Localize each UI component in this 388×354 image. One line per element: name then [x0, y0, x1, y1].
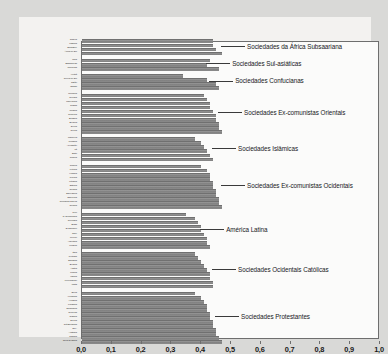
bar — [82, 316, 210, 320]
y-axis-country-labels: NigériaUgandaZimbábueÁfrica do SulÍndiaB… — [19, 41, 79, 339]
x-axis-tick-label: 0,6 — [255, 345, 265, 354]
bar — [82, 149, 207, 153]
y-axis-label: Uruguai — [69, 244, 77, 247]
x-axis-tick — [141, 341, 142, 344]
bar-row — [82, 74, 380, 77]
bar-row — [82, 252, 380, 255]
bar-row — [82, 201, 380, 204]
bar — [82, 332, 216, 336]
x-axis-tick-label: 0,7 — [285, 345, 295, 354]
bar — [82, 201, 219, 205]
y-axis-label: Zimbábue — [67, 46, 77, 49]
bar-row — [82, 158, 380, 161]
y-axis-label: Itália — [72, 251, 77, 254]
bar-row — [82, 221, 380, 224]
bar-row — [82, 260, 380, 263]
bar-row — [82, 296, 380, 299]
bar — [82, 217, 195, 221]
y-axis-label: Japão — [71, 81, 77, 84]
bar-row — [82, 324, 380, 327]
y-axis-label: Egito — [72, 152, 77, 155]
bar-row — [82, 237, 380, 240]
bar — [82, 145, 204, 149]
bar-row — [82, 169, 380, 172]
bar — [82, 336, 219, 340]
y-axis-label: Belarus — [70, 121, 77, 124]
bar-row — [82, 197, 380, 200]
bar — [82, 233, 204, 237]
y-axis-label: República Tcheca — [60, 200, 77, 203]
y-axis-label: Taiwan — [70, 85, 77, 88]
y-axis-label: Chile — [72, 232, 77, 235]
bar — [82, 165, 201, 169]
group-annotation: Sociedades Confucianas — [235, 77, 304, 84]
y-axis-label: EUA — [73, 327, 78, 330]
y-axis-label: Malta — [72, 283, 77, 286]
bar — [82, 277, 210, 281]
bar-row — [82, 233, 380, 236]
bar-row — [82, 52, 380, 55]
bar — [82, 173, 210, 177]
bar — [82, 328, 216, 332]
bar — [82, 154, 210, 158]
y-axis-label: Eslovênia — [68, 196, 78, 199]
bar-row — [82, 154, 380, 157]
bar — [82, 169, 207, 173]
bar — [82, 177, 210, 181]
y-axis-label: Moldávia — [68, 92, 77, 95]
y-axis-label: Lituânia — [69, 180, 77, 183]
bar — [82, 268, 207, 272]
y-axis-label: Austrália — [68, 331, 77, 334]
bar-row — [82, 118, 380, 121]
bar-row — [82, 332, 380, 335]
y-axis-label: Alemanha — [67, 295, 77, 298]
bar — [82, 221, 198, 225]
bar-row — [82, 141, 380, 144]
bar-row — [82, 137, 380, 140]
bar-row — [82, 300, 380, 303]
y-axis-label: Grécia — [71, 129, 77, 132]
bar-row — [82, 189, 380, 192]
y-axis-label: Brasil — [72, 223, 77, 226]
chart-canvas: NigériaUgandaZimbábueÁfrica do SulÍndiaB… — [19, 17, 371, 337]
x-axis-tick — [260, 341, 261, 344]
bars-layer — [82, 42, 378, 338]
bar-row — [82, 177, 380, 180]
bar-row — [82, 308, 380, 311]
y-axis-label: Bulgária — [69, 117, 77, 120]
y-axis-label: Geórgia — [69, 96, 77, 99]
bar-row — [82, 102, 380, 105]
x-axis-tick-label: 0,8 — [315, 345, 325, 354]
bar — [82, 324, 213, 328]
y-axis-label: Peru — [72, 211, 77, 214]
x-axis-tick — [290, 341, 291, 344]
bar — [82, 308, 207, 312]
y-axis-label: Jordânia — [69, 140, 77, 143]
bar-row — [82, 217, 380, 220]
y-axis-label: Marrocos — [68, 136, 77, 139]
bar — [82, 74, 183, 78]
bar — [82, 272, 210, 276]
bar-row — [82, 285, 380, 288]
bar-row — [82, 149, 380, 152]
y-axis-label: Canadá — [69, 335, 77, 338]
plot-frame — [81, 41, 379, 339]
x-axis-tick — [349, 341, 350, 344]
bar-row — [82, 245, 380, 248]
group-annotation: América Latina — [226, 226, 267, 233]
y-axis-label: Colômbia — [68, 219, 77, 222]
y-axis-label: Ucrânia — [69, 109, 77, 112]
x-axis-tick — [111, 341, 112, 344]
y-axis-label: Azerbaijão — [67, 144, 77, 147]
group-annotation: Sociedades Islâmicas — [238, 145, 298, 152]
y-axis-label: Rússia — [70, 104, 77, 107]
bar — [82, 106, 210, 110]
y-axis-label: Eslováquia — [66, 192, 77, 195]
y-axis-label: Uganda — [69, 42, 77, 45]
x-axis-tick-label: 0,4 — [195, 345, 205, 354]
bar-row — [82, 281, 380, 284]
bar-row — [82, 320, 380, 323]
group-annotation: Sociedades da África Subsaariana — [247, 43, 342, 50]
bar — [82, 260, 201, 264]
y-axis-label: Croácia — [69, 204, 77, 207]
